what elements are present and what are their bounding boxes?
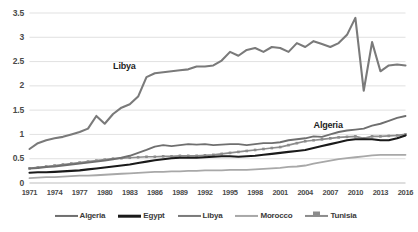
legend-swatch-icon xyxy=(55,212,78,221)
legend-item-algeria[interactable]: Algeria xyxy=(55,212,106,221)
legend-label: Libya xyxy=(203,212,223,220)
y-tick-label: 3.5 xyxy=(2,9,24,18)
x-tick-label: 1983 xyxy=(117,189,143,197)
x-tick-label: 1989 xyxy=(167,189,193,197)
legend-item-libya[interactable]: Libya xyxy=(178,212,223,221)
legend-item-egypt[interactable]: Egypt xyxy=(118,212,164,221)
legend-label: Algeria xyxy=(80,212,106,220)
annotation-algeria: Algeria xyxy=(314,120,343,130)
x-tick-label: 1995 xyxy=(217,189,243,197)
annotation-libya: Libya xyxy=(113,61,136,71)
legend-swatch-icon xyxy=(235,212,258,221)
legend-label: Morocco xyxy=(260,212,292,220)
y-tick-label: 1 xyxy=(2,130,24,139)
x-tick-label: 2004 xyxy=(292,189,318,197)
x-tick-label: 2013 xyxy=(367,189,393,197)
series-tunisia xyxy=(28,133,407,170)
x-tick-label: 2016 xyxy=(393,189,418,197)
x-tick-label: 1974 xyxy=(42,189,68,197)
y-tick-label: 1.5 xyxy=(2,106,24,115)
x-tick-label: 1998 xyxy=(242,189,268,197)
legend-swatch-icon xyxy=(305,212,328,221)
x-tick-label: 1986 xyxy=(142,189,168,197)
x-tick-label: 2001 xyxy=(267,189,293,197)
x-tick-label: 2010 xyxy=(342,189,368,197)
x-tick-label: 1971 xyxy=(17,189,43,197)
legend-item-morocco[interactable]: Morocco xyxy=(235,212,292,221)
y-tick-label: 0 xyxy=(2,179,24,188)
legend-swatch-icon xyxy=(118,212,141,221)
y-tick-label: 2.5 xyxy=(2,57,24,66)
x-tick-label: 1977 xyxy=(67,189,93,197)
legend-label: Tunisia xyxy=(330,212,356,220)
chart-legend: AlgeriaEgyptLibyaMoroccoTunisia xyxy=(0,208,411,224)
series-algeria xyxy=(30,116,406,168)
legend-item-tunisia[interactable]: Tunisia xyxy=(305,212,356,221)
y-tick-label: 0.5 xyxy=(2,154,24,163)
legend-swatch-icon xyxy=(178,212,201,221)
legend-label: Egypt xyxy=(143,212,164,220)
x-tick-label: 1980 xyxy=(92,189,118,197)
x-tick-label: 2007 xyxy=(317,189,343,197)
y-tick-label: 3 xyxy=(2,33,24,42)
x-tick-label: 1992 xyxy=(192,189,218,197)
y-tick-label: 2 xyxy=(2,81,24,90)
